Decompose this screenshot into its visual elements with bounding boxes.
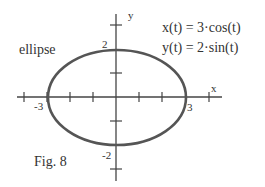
x-axis-label: x xyxy=(211,83,217,94)
figure-8-ellipse: y x 2 -2 -3 3 ellipse x(t) = 3·cos(t) y(… xyxy=(0,0,265,187)
tick-label-y-2: 2 xyxy=(102,39,108,50)
tick-label-y-neg2: -2 xyxy=(102,150,111,161)
equation-x: x(t) = 3·cos(t) xyxy=(162,21,241,35)
tick-label-x-neg3: -3 xyxy=(34,101,43,112)
tick-label-x-3: 3 xyxy=(187,102,193,113)
equation-y: y(t) = 2·sin(t) xyxy=(162,41,238,55)
y-axis-label: y xyxy=(128,10,134,21)
curve-name-label: ellipse xyxy=(19,43,56,57)
figure-caption: Fig. 8 xyxy=(34,155,67,169)
